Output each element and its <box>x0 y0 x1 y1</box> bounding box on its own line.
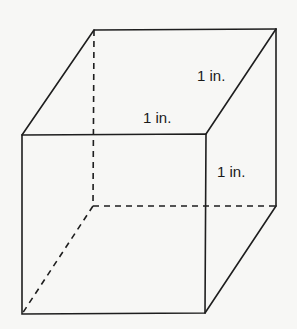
hidden-edge-back-left-vertical <box>93 30 94 206</box>
hidden-edge-bottom-left-slant <box>22 206 93 314</box>
edge-bottom-right-slant <box>205 206 276 313</box>
cube-diagram <box>0 0 297 329</box>
cube-front-face <box>22 134 206 314</box>
label-top-front-edge: 1 in. <box>143 110 171 125</box>
label-top-right-edge: 1 in. <box>197 68 225 83</box>
label-right-vertical-edge: 1 in. <box>217 164 245 179</box>
edge-top-left-slant <box>22 30 94 135</box>
edge-top-back <box>94 29 276 30</box>
